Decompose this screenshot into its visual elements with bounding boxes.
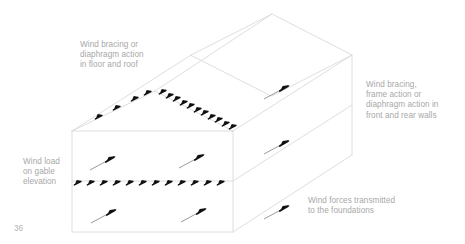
annotation-roof-diaphragm: Wind bracing or diaphragm action in floo… xyxy=(80,40,200,71)
gable-upper-wall-long-arrows xyxy=(90,154,205,170)
left-roof-slope-arrows xyxy=(95,90,152,119)
far-roof-plane xyxy=(191,14,352,96)
figure-page: Wind bracing or diaphragm action in floo… xyxy=(0,0,465,244)
annotation-gable-load: Wind load on gable elevation xyxy=(23,157,85,188)
right-roof-eave-arrows xyxy=(159,89,237,129)
annotation-foundations: Wind forces transmitted to the foundatio… xyxy=(308,196,444,216)
foundation-long-arrow xyxy=(264,205,290,219)
right-roof-eave-line xyxy=(233,55,352,131)
gable-lower-wall-long-arrows xyxy=(91,208,207,223)
side-wall-mid-floor-line xyxy=(233,105,352,181)
page-number: 36 xyxy=(14,224,23,234)
side-wall-base-line xyxy=(233,155,352,232)
annotation-side-walls: Wind bracing, frame action or diaphragm … xyxy=(366,80,465,121)
near-left-roof-slope xyxy=(72,91,155,131)
